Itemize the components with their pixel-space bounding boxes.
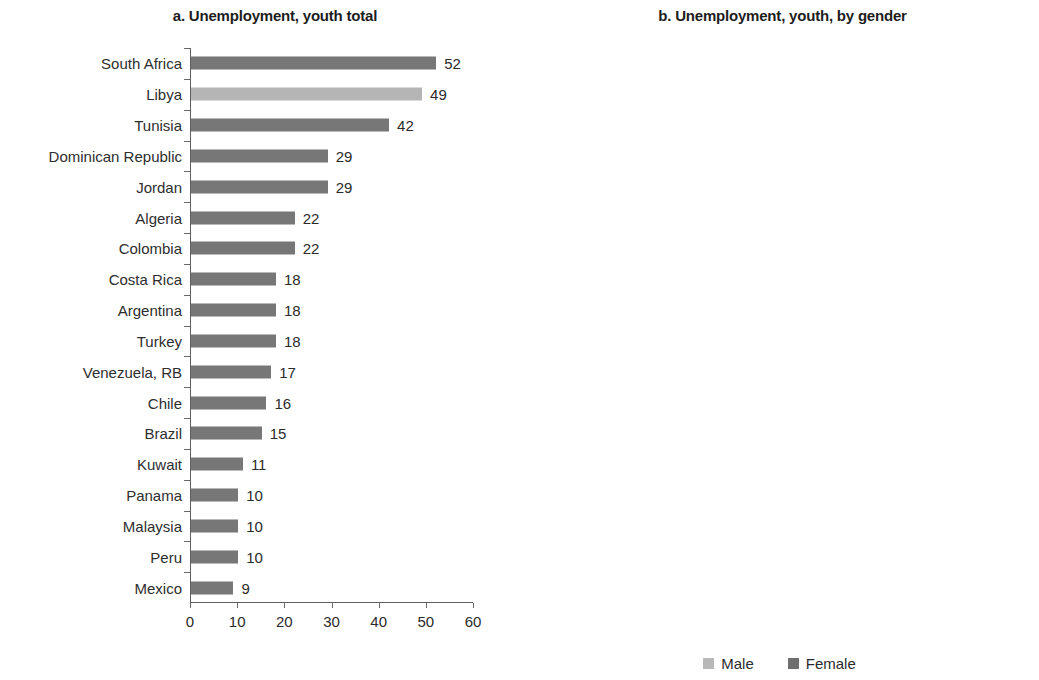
bar-row: South Africa52	[190, 48, 473, 79]
category-label: Chile	[148, 395, 182, 410]
bar-row: Brazil15	[190, 418, 473, 449]
bar-value-label: 15	[270, 425, 287, 442]
bar-value-label: 16	[274, 394, 291, 411]
category-label: Malaysia	[123, 518, 182, 533]
y-axis-tick	[184, 418, 190, 419]
category-label: Brazil	[144, 426, 182, 441]
panel-b-unemployment-youth-by-gender: b. Unemployment, youth, by gender South …	[520, 0, 1039, 680]
category-label: Peru	[150, 549, 182, 564]
bar-total	[191, 119, 389, 132]
bar-row: Libya49	[190, 79, 473, 110]
bar-value-label: 17	[279, 363, 296, 380]
bar-value-label: 22	[303, 240, 320, 257]
legend-item-male: Male	[703, 655, 754, 672]
y-axis-tick	[184, 295, 190, 296]
bar-total	[191, 458, 243, 471]
bar-value-label: 10	[246, 548, 263, 565]
category-label: Algeria	[135, 210, 182, 225]
y-axis-tick	[184, 572, 190, 573]
bar-total	[191, 427, 262, 440]
x-axis-tick	[332, 603, 333, 608]
bar-value-label: 29	[336, 178, 353, 195]
bar-value-label: 10	[246, 487, 263, 504]
y-axis-tick	[184, 449, 190, 450]
y-axis-tick	[184, 541, 190, 542]
category-label: Venezuela, RB	[83, 364, 182, 379]
bar-total	[191, 304, 276, 317]
legend-label: Male	[721, 655, 754, 672]
category-label: Tunisia	[134, 118, 182, 133]
y-axis-tick	[184, 202, 190, 203]
x-axis-tick	[237, 603, 238, 608]
bar-total	[191, 242, 295, 255]
y-axis-tick	[184, 48, 190, 49]
y-axis-tick	[184, 141, 190, 142]
bar-total	[191, 57, 436, 70]
x-axis-tick	[379, 603, 380, 608]
y-axis-tick	[184, 356, 190, 357]
bar-value-label: 11	[251, 456, 267, 473]
y-axis-tick	[184, 511, 190, 512]
x-axis-tick-label: 50	[417, 613, 434, 630]
x-axis-tick-label: 10	[229, 613, 246, 630]
bar-row: Costa Rica18	[190, 264, 473, 295]
x-axis-tick-label: 40	[370, 613, 387, 630]
bar-value-label: 52	[444, 55, 461, 72]
bar-value-label: 9	[241, 579, 249, 596]
y-axis-tick	[184, 233, 190, 234]
bar-value-label: 18	[284, 332, 301, 349]
bar-row: Dominican Republic29	[190, 141, 473, 172]
category-label: Costa Rica	[109, 272, 182, 287]
category-label: Colombia	[119, 241, 182, 256]
bar-total	[191, 334, 276, 347]
bar-total	[191, 149, 328, 162]
y-axis-tick	[184, 79, 190, 80]
category-label: Jordan	[136, 179, 182, 194]
legend-label: Female	[806, 655, 856, 672]
bar-value-label: 18	[284, 271, 301, 288]
y-axis-tick	[184, 171, 190, 172]
panel-b-title: b. Unemployment, youth, by gender	[520, 7, 1039, 24]
bar-row: Venezuela, RB17	[190, 356, 473, 387]
bar-row: Jordan29	[190, 171, 473, 202]
bar-value-label: 22	[303, 209, 320, 226]
bar-row: Kuwait11	[190, 449, 473, 480]
bar-row: Mexico9	[190, 572, 473, 603]
bar-row: Argentina18	[190, 295, 473, 326]
bar-total	[191, 180, 328, 193]
bar-value-label: 18	[284, 302, 301, 319]
x-axis-tick	[190, 603, 191, 608]
category-label: Kuwait	[137, 457, 182, 472]
bar-value-label: 49	[430, 86, 447, 103]
bar-row: Turkey18	[190, 326, 473, 357]
x-axis-tick-label: 0	[186, 613, 194, 630]
y-axis-tick	[184, 264, 190, 265]
bar-value-label: 42	[397, 117, 414, 134]
x-axis-tick-label: 20	[276, 613, 293, 630]
category-label: Argentina	[118, 303, 182, 318]
bar-row: Malaysia10	[190, 511, 473, 542]
x-axis-tick	[473, 603, 474, 608]
bar-row: Peru10	[190, 541, 473, 572]
y-axis-tick	[184, 326, 190, 327]
bar-row: Algeria22	[190, 202, 473, 233]
legend: MaleFemale	[520, 655, 1039, 672]
bar-total	[191, 550, 238, 563]
x-axis-tick	[426, 603, 427, 608]
category-label: South Africa	[101, 56, 182, 71]
bar-total	[191, 273, 276, 286]
bar-total	[191, 581, 233, 594]
bar-row: Panama10	[190, 480, 473, 511]
bar-value-label: 29	[336, 147, 353, 164]
bar-total	[191, 365, 271, 378]
panel-a-plot-area: South Africa52Libya49Tunisia42Dominican …	[190, 48, 473, 603]
y-axis-tick	[184, 387, 190, 388]
x-axis-tick-label: 30	[323, 613, 340, 630]
panel-a-title: a. Unemployment, youth total	[0, 7, 520, 24]
legend-swatch-icon	[788, 658, 799, 669]
category-label: Libya	[146, 87, 182, 102]
bar-total	[191, 519, 238, 532]
category-label: Turkey	[137, 333, 182, 348]
category-label: Dominican Republic	[49, 148, 182, 163]
category-label: Mexico	[134, 580, 182, 595]
